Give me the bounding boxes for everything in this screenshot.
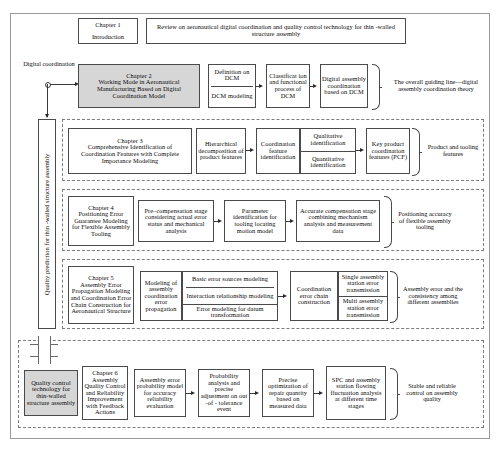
plus-icon-center	[39, 345, 48, 354]
chapter5-box[interactable]: Chapter 5 Assembly Error Propagation Mod…	[68, 266, 134, 324]
chapter6-brace	[390, 368, 398, 420]
chapter3-brace	[412, 128, 420, 176]
chapter2-outcome: The overall guiding line—digital assembl…	[385, 64, 487, 108]
arrow-chapter4-1	[218, 219, 222, 223]
chapter6-outcome: Stable and reliable control on assembly …	[402, 366, 462, 420]
chapter5-step2-cell1: Basic error sources modeling	[191, 272, 269, 287]
chapter6-step1-box[interactable]: Assembly error probability model for acc…	[134, 369, 186, 417]
chapter4-step1-box[interactable]: Pre–compensation stage considering actua…	[138, 200, 214, 242]
chapter5-outcome: Assembly error and the consistency among…	[402, 268, 464, 324]
plus-icon	[30, 336, 58, 364]
chapter2-subtitle: Working Mode in Aeronautical Manufacturi…	[97, 78, 181, 98]
chapter5-step4-box[interactable]: Single assembly station error transmissi…	[338, 271, 388, 321]
chapter6-subtitle: Assembly Quality Control and Reliability…	[84, 376, 125, 416]
quality-prediction-label-text: Quality prediction for thin -walled stru…	[44, 153, 51, 295]
chapter5-step1-box[interactable]: Modeling of assembly coordination error …	[140, 271, 182, 321]
connector-chapter2-1	[256, 86, 260, 87]
chapter2-step2-box[interactable]: Classificat ion and functional process o…	[266, 64, 310, 108]
chapter5-brace	[390, 271, 398, 323]
chapter5-subtitle: Assembly Error Propagation Modeling and …	[71, 281, 132, 314]
arrow-chapter5-1	[283, 294, 287, 298]
chapter2-box[interactable]: Chapter 2 Working Mode in Aeronautical M…	[78, 64, 200, 108]
chapter1-subtitle: Introduction	[91, 31, 125, 43]
chapter5-step2-box[interactable]: Basic error sources modeling Interaction…	[182, 271, 278, 321]
chapter4-step2-box[interactable]: Parameter identification for tooling loc…	[224, 200, 286, 242]
chapter3-step3-box[interactable]: Qualitative identification Quantitative …	[300, 128, 356, 174]
chapter6-step3-box[interactable]: Precise optimization of repair quantity …	[262, 369, 314, 417]
arrow-chapter3-2	[360, 148, 364, 152]
arrow-chapter4-2	[290, 219, 294, 223]
chapter3-step3-cell2: Quantitative identification	[301, 151, 355, 174]
chapter1-box[interactable]: Chapter 1 Introduction	[78, 18, 138, 44]
figure-canvas: Chapter 1 Introduction Review on aeronau…	[0, 0, 498, 458]
chapter3-box[interactable]: Chapter 3 Comprehensive Identification o…	[68, 128, 192, 174]
chapter5-step2-cell3: Error modeling for datum transformation	[183, 304, 277, 320]
chapter3-outcome: Product and tooling features	[424, 128, 482, 174]
arrow-chapter6-3	[319, 391, 323, 395]
chapter6-step4-box[interactable]: SPC and assembly station flowing fluctua…	[326, 366, 386, 420]
arrow-chapter3-1	[250, 148, 254, 152]
chapter6-step2-box[interactable]: Probability analysis and precise adjustm…	[198, 369, 250, 417]
chapter5-step2-cell2: Interaction relationship modeling	[186, 287, 275, 303]
chapter5-step4-cell1: Single assembly station error transmissi…	[339, 272, 387, 296]
chapter5-step3-box[interactable]: Coordination error chain construction	[290, 271, 338, 321]
chapter3-subtitle: Comprehensive Identification of Coordina…	[81, 143, 179, 163]
chapter2-step1-cell1: Definition on DCM	[209, 65, 255, 86]
quality-control-technology-box[interactable]: Quality control technology for thin-wall…	[24, 370, 78, 416]
connector-node-down	[47, 84, 48, 117]
branch-node-dot	[45, 82, 51, 88]
chapter4-box[interactable]: Chapter 4 Positioning Error Guarantee Mo…	[68, 196, 134, 246]
digital-coordination-label: Digital coordination	[18, 54, 80, 74]
arrow-chapter6-1	[191, 391, 195, 395]
connector-chapter2-2	[310, 86, 314, 87]
chapter6-box[interactable]: Chapter 6 Assembly Quality Control and R…	[82, 366, 128, 420]
chapter1-title: Chapter 1	[94, 19, 121, 31]
chapter4-brace	[384, 196, 392, 248]
chapter4-subtitle: Positioning Error Guarantee Modeling for…	[72, 210, 130, 237]
chapter2-brace	[372, 64, 380, 110]
arrow-chapter6-2	[255, 391, 259, 395]
chapter3-step2-box[interactable]: Coordination feature identification	[256, 128, 300, 174]
connector-node-to-chapter2	[50, 84, 77, 85]
arrow-down-to-quality-prediction	[45, 114, 49, 118]
chapter4-outcome: Positioning accuracy of flexible assembl…	[396, 196, 454, 246]
chapter2-step1-box[interactable]: Definition on DCM DCM modeling	[208, 64, 256, 108]
chapter2-step3-box[interactable]: Digital assembly coordination based on D…	[320, 64, 368, 108]
chapter3-step4-box[interactable]: Key product coordination features (PCF)	[366, 128, 410, 174]
chapter3-step3-cell1: Qualitative identification	[301, 129, 355, 151]
chapter2-step1-cell2: DCM modeling	[211, 86, 254, 108]
quality-prediction-label: Quality prediction for thin -walled stru…	[38, 119, 56, 329]
chapter1-content-box[interactable]: Review on aeronautical digital coordinat…	[146, 18, 406, 44]
chapter4-step3-box[interactable]: Accurate compensation stage combining me…	[296, 200, 380, 242]
chapter5-step4-cell2: Multi assembly station error transmissio…	[339, 296, 387, 321]
chapter3-step1-box[interactable]: Hierarchical decomposition of product fe…	[196, 128, 246, 174]
